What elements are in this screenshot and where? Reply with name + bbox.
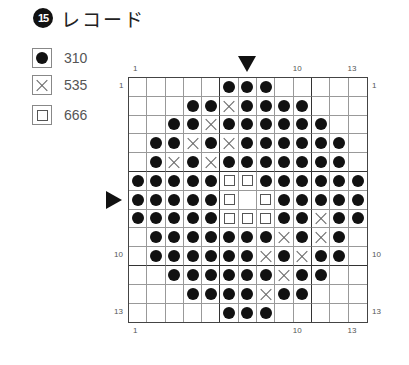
dot-icon [278,100,290,112]
chart-title: 15 レコード [33,6,145,30]
grid-cell [312,210,330,229]
grid-cell [184,116,202,135]
legend-item: 535 [32,75,87,95]
legend-code: 666 [64,107,87,123]
grid-cell [129,191,147,210]
grid-cell [147,304,165,323]
square-icon [260,213,271,224]
dot-icon [168,175,180,187]
dot-icon [205,288,217,300]
grid-cell [184,172,202,191]
grid-cell [184,97,202,116]
dot-icon [333,212,345,224]
grid-cell [239,266,257,285]
grid-cell [239,134,257,153]
grid-cell [220,304,238,323]
grid-cell [184,153,202,172]
grid-cell [147,134,165,153]
square-icon [242,213,253,224]
dot-icon [260,156,272,168]
grid-cell [129,210,147,229]
dot-icon [241,231,253,243]
legend-code: 310 [64,50,87,66]
row-label: 13 [114,307,123,316]
grid-cell [166,266,184,285]
grid-cell [275,304,293,323]
dot-icon [223,156,235,168]
grid-cell [330,247,348,266]
dot-icon [260,81,272,93]
grid-cell [220,210,238,229]
grid-cell [349,266,367,285]
grid-cell [184,228,202,247]
grid-cell [330,285,348,304]
cross-icon [205,156,217,168]
grid-cell [349,228,367,247]
grid-cell [239,191,257,210]
grid-cell [166,210,184,229]
grid-cell [220,191,238,210]
dot-icon [205,175,217,187]
dot-icon [296,175,308,187]
dot-icon [241,269,253,281]
dot-icon [315,175,327,187]
dot-icon [278,212,290,224]
dot-icon [205,194,217,206]
grid-cell [129,172,147,191]
dot-icon [36,52,48,64]
column-label: 1 [133,64,137,73]
dot-icon [132,212,144,224]
cross-icon [278,231,290,243]
dot-icon [315,137,327,149]
dot-icon [333,231,345,243]
square-icon [260,194,271,205]
grid-cell [257,172,275,191]
dot-icon [278,118,290,130]
dot-icon [260,269,272,281]
grid-cell [220,266,238,285]
dot-icon [352,175,364,187]
square-icon [224,194,235,205]
grid-cell [349,134,367,153]
grid-cell [220,116,238,135]
dot-icon [241,156,253,168]
grid-cell [312,116,330,135]
grid-cell [257,78,275,97]
cross-icon [36,79,48,91]
dot-icon [187,175,199,187]
grid-cell [275,210,293,229]
grid-cell [275,97,293,116]
grid-cell [275,266,293,285]
grid-cell [330,210,348,229]
grid-cell [294,134,312,153]
grid-cell [202,266,220,285]
grid-cell [257,247,275,266]
dot-icon [223,307,235,319]
grid-cell [147,266,165,285]
grid-cell [275,191,293,210]
grid-cell [147,285,165,304]
dot-icon [150,137,162,149]
dot-icon [352,212,364,224]
grid-cell [312,172,330,191]
grid-cell [349,304,367,323]
grid-cell [275,285,293,304]
grid-cell [257,228,275,247]
cross-icon [260,250,272,262]
grid-cell [166,228,184,247]
dot-icon [150,212,162,224]
dot-icon [223,231,235,243]
grid-cell [330,172,348,191]
dot-icon [205,137,217,149]
grid-cell [349,210,367,229]
grid-cell [239,78,257,97]
grid-cell [129,247,147,266]
cross-icon [223,137,235,149]
cross-icon [205,118,217,130]
dot-icon [223,250,235,262]
dot-icon [187,156,199,168]
dot-icon [296,288,308,300]
grid-cell [129,153,147,172]
dot-icon [150,156,162,168]
square-icon [224,175,235,186]
